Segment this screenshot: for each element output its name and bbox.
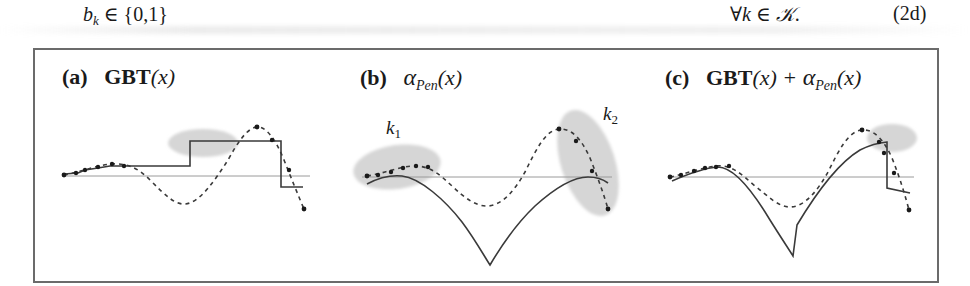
highlight-region bbox=[168, 129, 238, 157]
figure-plots bbox=[0, 0, 970, 286]
highlight-region bbox=[867, 124, 917, 152]
panel-a-plot bbox=[62, 125, 310, 212]
panel-b-plot bbox=[350, 102, 630, 265]
combined-curve bbox=[672, 142, 910, 256]
k2-region bbox=[545, 102, 630, 223]
panel-c-plot bbox=[668, 124, 917, 256]
